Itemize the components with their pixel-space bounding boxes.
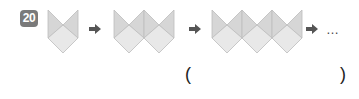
answer-open-paren: ( xyxy=(185,64,191,85)
figure-2-pattern xyxy=(113,8,176,56)
arrow-right-icon xyxy=(189,24,201,34)
arrow-right-icon xyxy=(306,24,318,34)
continuation-ellipsis: … xyxy=(326,22,340,37)
problem-number-badge: 20 xyxy=(20,10,38,27)
arrow-right-icon xyxy=(89,24,101,34)
figure-1-pattern xyxy=(47,8,80,56)
figure-3-pattern xyxy=(211,8,304,56)
answer-blank[interactable] xyxy=(195,64,335,84)
answer-close-paren: ) xyxy=(340,64,346,85)
